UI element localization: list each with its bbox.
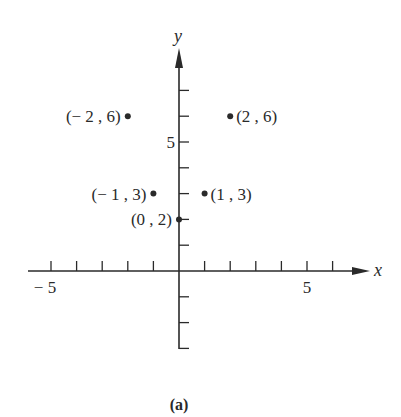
data-point: (− 1 , 3) — [91, 185, 156, 204]
x-tick-label: 5 — [303, 278, 312, 297]
axes — [28, 48, 370, 349]
tick-labels: − 555 — [34, 133, 311, 297]
point-marker-icon — [227, 113, 233, 119]
coordinate-plane: − 555 (− 2 , 6)(2 , 6)(− 1 , 3)(1 , 3)(0… — [0, 0, 401, 417]
x-tick-label: − 5 — [34, 278, 56, 297]
y-tick-label: 5 — [167, 133, 176, 152]
figure-caption: (a) — [170, 396, 189, 414]
data-point: (1 , 3) — [202, 185, 252, 204]
point-label: (2 , 6) — [236, 107, 277, 126]
point-label: (1 , 3) — [211, 185, 252, 204]
data-point: (− 2 , 6) — [66, 107, 131, 126]
point-marker-icon — [125, 113, 131, 119]
data-point: (2 , 6) — [227, 107, 277, 126]
x-axis-arrow-icon — [352, 267, 370, 275]
data-points: (− 2 , 6)(2 , 6)(− 1 , 3)(1 , 3)(0 , 2) — [66, 107, 277, 229]
point-label: (− 1 , 3) — [91, 185, 146, 204]
data-point: (0 , 2) — [131, 210, 182, 229]
point-marker-icon — [176, 216, 182, 222]
x-axis-label: x — [373, 260, 382, 280]
tick-marks — [51, 90, 333, 348]
point-label: (0 , 2) — [131, 210, 172, 229]
point-marker-icon — [150, 191, 156, 197]
point-label: (− 2 , 6) — [66, 107, 121, 126]
y-axis-arrow-icon — [175, 48, 183, 68]
point-marker-icon — [202, 191, 208, 197]
y-axis-label: y — [172, 26, 182, 46]
